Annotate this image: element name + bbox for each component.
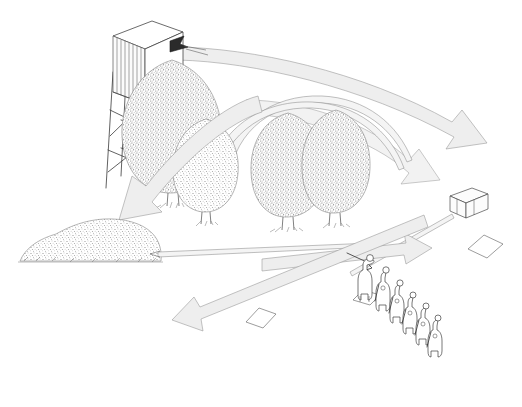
hunter-4 (402, 292, 417, 334)
illustration-canvas (0, 0, 522, 407)
hunter-3 (389, 280, 404, 323)
tree-right (302, 110, 370, 228)
ground-marker-center (246, 308, 276, 328)
arrow-ground-long-left (172, 215, 428, 331)
hunter-5 (415, 303, 430, 345)
ground-marker-right (468, 235, 503, 258)
hunting-diagram-svg (0, 0, 522, 407)
crate-box (450, 188, 488, 218)
hunter-2 (375, 267, 390, 311)
hedge-mound (18, 219, 163, 262)
hunter-6 (427, 315, 442, 357)
